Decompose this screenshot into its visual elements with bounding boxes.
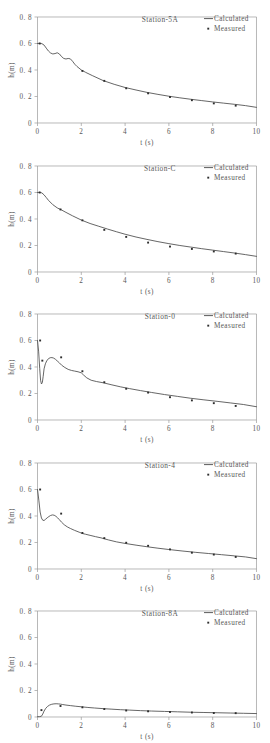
data-point — [213, 102, 215, 104]
x-tick-label: 6 — [167, 574, 171, 582]
y-tick-label: 0. 6 — [20, 189, 32, 197]
y-tick-label: 0. 4 — [20, 512, 32, 520]
multi-panel-figure: 00. 20. 40. 60. 80246810t (s)h(m)Station… — [0, 0, 270, 743]
legend-label-calculated: Calculated — [214, 609, 249, 617]
x-tick-label: 4 — [123, 574, 127, 582]
data-point — [60, 357, 62, 359]
legend-label-measured: Measured — [214, 619, 246, 627]
data-point — [125, 388, 127, 390]
data-point — [39, 488, 41, 490]
data-point — [81, 219, 83, 221]
data-point — [60, 512, 62, 514]
legend-point-swatch — [207, 473, 209, 475]
data-point — [235, 252, 237, 254]
data-point — [81, 70, 83, 72]
data-point — [81, 532, 83, 534]
x-tick-label: 8 — [211, 277, 215, 285]
data-point — [125, 236, 127, 238]
x-axis-title: t (s) — [140, 585, 154, 593]
x-tick-label: 4 — [123, 426, 127, 434]
legend-label-calculated: Calculated — [214, 312, 249, 320]
x-axis: 0246810 — [36, 717, 261, 730]
y-axis: 00. 20. 40. 60. 8 — [20, 459, 38, 573]
x-tick-label: 2 — [79, 277, 83, 285]
y-tick-label: 0. 4 — [20, 67, 32, 75]
y-tick-label: 0. 2 — [20, 242, 32, 250]
station-label: Station-8A — [142, 610, 179, 619]
y-tick-label: 0 — [28, 417, 32, 425]
y-axis-title: h(m) — [8, 359, 16, 375]
data-point — [41, 360, 43, 362]
chart-panel: 00. 20. 40. 60. 80246810t (s)h(m)Station… — [0, 297, 270, 446]
x-tick-label: 8 — [211, 128, 215, 136]
data-point — [40, 710, 42, 712]
station-label: Station-5A — [142, 15, 179, 24]
calculated-series-line — [38, 43, 257, 107]
x-tick-label: 2 — [79, 574, 83, 582]
y-tick-label: 0 — [28, 268, 32, 276]
data-point — [147, 711, 149, 713]
x-axis-title: t (s) — [140, 288, 154, 296]
data-point — [213, 402, 215, 404]
x-tick-label: 0 — [36, 277, 40, 285]
x-tick-label: 0 — [36, 128, 40, 136]
station-label: Station-C — [144, 164, 176, 173]
data-point — [125, 87, 127, 89]
measured-series-points — [39, 43, 237, 107]
legend-point-swatch — [207, 28, 209, 30]
legend-label-calculated: Calculated — [214, 15, 249, 23]
x-tick-label: 10 — [252, 426, 260, 434]
data-point — [235, 713, 237, 715]
chart-panel: 00. 20. 40. 60. 80246810t (s)h(m)Station… — [0, 594, 270, 743]
x-tick-label: 0 — [36, 723, 40, 731]
y-tick-label: 0 — [28, 714, 32, 722]
y-tick-label: 0. 8 — [20, 311, 32, 319]
data-point — [213, 553, 215, 555]
data-point — [39, 191, 41, 193]
x-tick-label: 4 — [123, 723, 127, 731]
y-axis: 00. 20. 40. 60. 8 — [20, 608, 38, 722]
data-point — [125, 710, 127, 712]
x-tick-label: 10 — [252, 723, 260, 731]
x-tick-label: 8 — [211, 574, 215, 582]
data-point — [235, 405, 237, 407]
data-point — [191, 248, 193, 250]
data-point — [103, 229, 105, 231]
y-tick-label: 0. 6 — [20, 337, 32, 345]
x-axis: 0246810 — [36, 272, 261, 285]
x-tick-label: 4 — [123, 277, 127, 285]
y-tick-label: 0. 4 — [20, 364, 32, 372]
x-axis: 0246810 — [36, 420, 261, 433]
y-tick-label: 0. 6 — [20, 634, 32, 642]
y-tick-label: 0. 6 — [20, 40, 32, 48]
data-point — [81, 370, 83, 372]
data-point — [103, 708, 105, 710]
y-tick-label: 0. 2 — [20, 539, 32, 547]
y-tick-label: 0 — [28, 120, 32, 128]
data-point — [191, 552, 193, 554]
data-point — [147, 92, 149, 94]
y-tick-label: 0. 2 — [20, 687, 32, 695]
calculated-series-line — [38, 341, 257, 407]
legend-label-calculated: Calculated — [214, 164, 249, 172]
legend-point-swatch — [207, 176, 209, 178]
x-tick-label: 10 — [252, 574, 260, 582]
data-point — [147, 545, 149, 547]
y-tick-label: 0. 2 — [20, 390, 32, 398]
x-tick-label: 2 — [79, 128, 83, 136]
data-point — [103, 537, 105, 539]
y-tick-label: 0. 8 — [20, 608, 32, 616]
data-point — [235, 556, 237, 558]
measured-series-points — [39, 488, 236, 557]
data-point — [60, 208, 62, 210]
legend-label-measured: Measured — [214, 25, 246, 33]
x-tick-label: 2 — [79, 426, 83, 434]
data-point — [103, 80, 105, 82]
chart-panel: 00. 20. 40. 60. 80246810t (s)h(m)Station… — [0, 149, 270, 298]
data-point — [169, 245, 171, 247]
data-point — [235, 105, 237, 107]
data-point — [81, 707, 83, 709]
x-tick-label: 6 — [167, 277, 171, 285]
chart-panel: 00. 20. 40. 60. 80246810t (s)h(m)Station… — [0, 446, 270, 595]
legend-point-swatch — [207, 325, 209, 327]
